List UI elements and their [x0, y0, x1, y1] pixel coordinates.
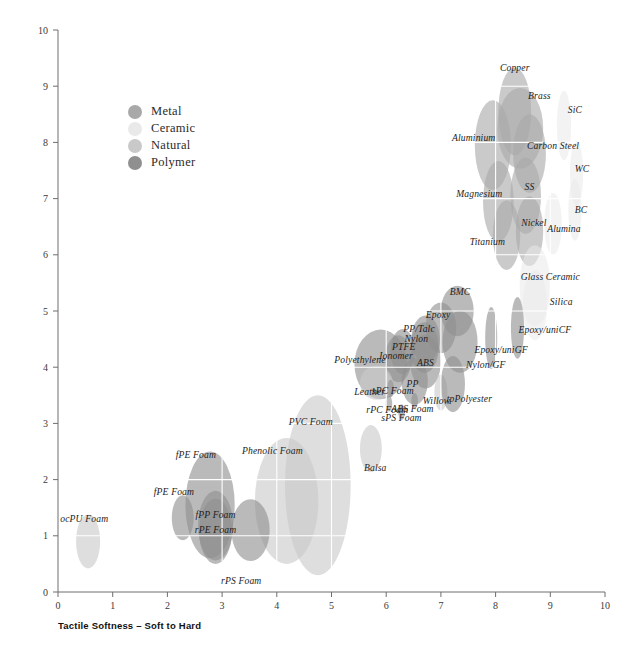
bubble-label: fPE Foam [154, 485, 194, 496]
bubble-label: Glass Ceramic [521, 271, 580, 282]
bubble-label: Alumina [547, 222, 581, 233]
legend-swatch-icon [128, 156, 142, 170]
y-tick-label: 7 [43, 193, 48, 204]
bubble-label: BC [575, 203, 588, 214]
y-tick-label: 0 [43, 587, 48, 598]
bubble-label: sPS Foam [381, 411, 421, 422]
x-axis-title: Tactile Softness – Soft to Hard [58, 620, 201, 631]
bubble-label: PVC Foam [289, 415, 333, 426]
legend-swatch-icon [128, 122, 142, 136]
bubble-label: Copper [500, 61, 530, 72]
bubble-label: SiC [568, 103, 582, 114]
bubble-label: sPC Foam [372, 384, 414, 395]
legend-label: Ceramic [151, 121, 195, 136]
y-tick-label: 1 [43, 530, 48, 541]
x-tick-label: 5 [329, 600, 334, 611]
legend: MetalCeramicNaturalPolymer [128, 103, 195, 171]
legend-swatch-icon [128, 105, 142, 119]
bubble-label: rPS Foam [221, 574, 261, 585]
bubble-label: Epoxy/uniCF [518, 323, 571, 334]
x-tick-label: 9 [548, 600, 553, 611]
bubble-label: Epoxy [426, 308, 451, 319]
bubble-label: tpPolyester [447, 393, 492, 404]
bubble-label: rPE Foam [195, 524, 236, 535]
legend-item-natural[interactable]: Natural [128, 137, 195, 154]
bubble-label: Aluminium [452, 131, 495, 142]
legend-label: Natural [151, 138, 191, 153]
y-tick-label: 8 [43, 137, 48, 148]
x-tick-label: 7 [438, 600, 443, 611]
legend-label: Polymer [151, 155, 195, 170]
y-tick-label: 9 [43, 81, 48, 92]
y-tick-label: 4 [43, 362, 48, 373]
x-tick-label: 10 [600, 600, 610, 611]
bubble-label: Nickel [521, 217, 546, 228]
legend-item-polymer[interactable]: Polymer [128, 154, 195, 171]
bubble-label: ocPU Foam [60, 512, 108, 523]
bubble[interactable] [172, 495, 194, 540]
legend-item-metal[interactable]: Metal [128, 103, 195, 120]
bubble-label: Silica [550, 295, 573, 306]
x-tick-label: 0 [56, 600, 61, 611]
bubble-label: fPE Foam [176, 449, 216, 460]
y-tick-label: 6 [43, 249, 48, 260]
x-tick-label: 2 [165, 600, 170, 611]
bubble-label: Brass [528, 89, 551, 100]
y-tick-label: 2 [43, 474, 48, 485]
bubble-label: Titanium [470, 235, 505, 246]
bubble-chart-figure: 012345678910012345678910 Tactile Softnes… [0, 0, 630, 648]
x-tick-label: 4 [274, 600, 279, 611]
y-tick-label: 10 [38, 25, 48, 36]
bubble-label: fPP Foam [195, 509, 235, 520]
bubble-label: Balsa [364, 462, 387, 473]
bubble-label: Polyethylene [334, 353, 385, 364]
legend-label: Metal [151, 104, 182, 119]
bubble-label: Nylon/GF [466, 359, 506, 370]
bubble-label: WC [575, 162, 590, 173]
x-tick-label: 8 [493, 600, 498, 611]
bubble-label: Magnesium [456, 187, 502, 198]
legend-item-ceramic[interactable]: Ceramic [128, 120, 195, 137]
bubble-label: BMC [450, 286, 471, 297]
legend-swatch-icon [128, 139, 142, 153]
bubble-label: ABS [417, 356, 434, 367]
bubble[interactable] [231, 499, 269, 561]
bubble-label: SS [525, 181, 535, 192]
bubble-label: Epoxy/uniGF [474, 344, 527, 355]
bubble-label: Phenolic Foam [242, 445, 303, 456]
y-tick-label: 5 [43, 306, 48, 317]
y-tick-label: 3 [43, 418, 48, 429]
x-tick-label: 3 [220, 600, 225, 611]
x-tick-label: 6 [384, 600, 389, 611]
bubble-label: Carbon Steel [527, 140, 579, 151]
x-tick-label: 1 [110, 600, 115, 611]
